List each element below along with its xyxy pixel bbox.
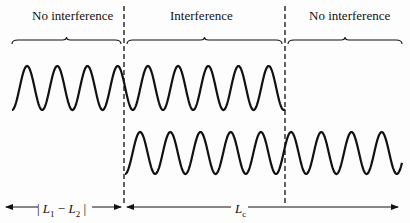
interference-diagram: No interference Interference No interfer… [0,0,410,223]
region-label-no-interference-right: No interference [309,8,390,24]
region-brace-2 [127,37,282,44]
wave-2-sinusoid [125,132,402,174]
region-brace-3 [288,37,402,44]
coherence-length-label: Lc [233,201,248,219]
region-brace-1 [12,37,121,44]
diagram-artwork [0,0,410,223]
region-label-no-interference-left: No interference [32,8,113,24]
path-difference-label: | L1 − L2 | [37,201,86,219]
region-label-interference: Interference [170,8,233,24]
wave-1-sinusoid [12,66,285,110]
